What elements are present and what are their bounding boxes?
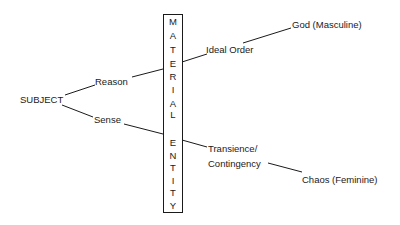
god-masculine-label: God (Masculine) (292, 19, 362, 30)
box-letter: L (164, 110, 182, 120)
connector-lines (0, 0, 400, 225)
edge-subject-sense (62, 105, 93, 117)
box-letter: Y (164, 201, 182, 211)
box-letter: E (164, 138, 182, 148)
edge-box-transience (182, 140, 207, 147)
box-letter: E (164, 59, 182, 69)
box-letter: I (164, 176, 182, 186)
box-letter: A (164, 31, 182, 41)
reason-label: Reason (95, 76, 128, 87)
box-letter: A (164, 99, 182, 109)
box-letter: R (164, 72, 182, 82)
material-entity-box: M A T E R I A L E N T I T Y (163, 14, 183, 213)
sense-label: Sense (94, 114, 121, 125)
edge-subject-reason (65, 85, 95, 95)
chaos-feminine-label: Chaos (Feminine) (302, 174, 378, 185)
edge-reason-box (132, 69, 163, 77)
box-letter: I (164, 85, 182, 95)
transience-label: Transience/ (208, 143, 257, 154)
box-letter: T (164, 163, 182, 173)
edge-ideal-order-god (243, 28, 291, 43)
material-entity-diagram: SUBJECT Reason Sense Ideal Order God (Ma… (0, 0, 400, 225)
edge-contingency-chaos (268, 163, 302, 172)
box-letter: N (164, 151, 182, 161)
subject-label: SUBJECT (20, 94, 63, 105)
edge-sense-box (124, 124, 163, 134)
edge-box-ideal-order (182, 54, 207, 62)
contingency-label: Contingency (208, 158, 261, 169)
box-letter: T (164, 188, 182, 198)
ideal-order-label: Ideal Order (206, 44, 254, 55)
box-letter: M (164, 17, 182, 27)
box-letter: T (164, 45, 182, 55)
